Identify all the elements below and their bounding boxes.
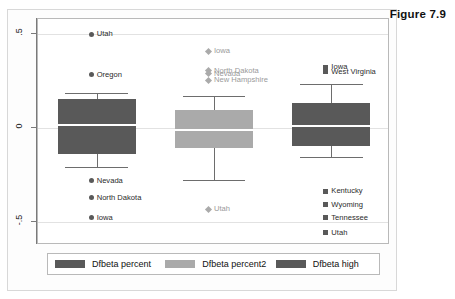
outlier-point: Nevada: [89, 177, 123, 185]
y-axis-tick-mark: [31, 127, 36, 128]
outlier-marker-icon: [323, 215, 328, 220]
median-line: [292, 125, 370, 127]
figure-page: Figure 7.9 .50-.5 UtahOregonNevadaNorth …: [0, 0, 455, 299]
outlier-point: Utah: [89, 30, 113, 38]
outlier-point: Tennessee: [323, 214, 368, 222]
outlier-marker-icon: [205, 206, 212, 213]
legend-swatch-icon: [276, 260, 306, 268]
outlier-point: Utah: [206, 205, 230, 213]
whisker-cap-upper: [183, 96, 245, 97]
outlier-marker-icon: [89, 215, 94, 220]
outlier-point: Oregon: [89, 71, 122, 79]
outlier-label: Utah: [97, 30, 113, 38]
legend-label: Dfbeta percent: [92, 259, 151, 269]
whisker-lower: [331, 146, 332, 157]
outlier-label: Utah: [214, 205, 230, 213]
y-axis-tick-label: -.5: [14, 209, 24, 231]
outlier-point: Iowa: [206, 47, 230, 55]
outlier-label: North Dakota: [97, 194, 142, 202]
outlier-label: Wyoming: [331, 201, 363, 209]
outlier-point: Utah: [323, 229, 347, 237]
y-axis-tick-mark: [31, 33, 36, 34]
whisker-lower: [97, 154, 98, 167]
median-line: [58, 124, 136, 126]
y-axis-tick-mark: [31, 221, 36, 222]
whisker-cap-lower: [183, 180, 245, 181]
plot-area: UtahOregonNevadaNorth DakotaIowaIowaNort…: [37, 18, 389, 244]
figure-title: Figure 7.9: [390, 8, 446, 20]
whisker-cap-lower: [65, 167, 127, 168]
legend-swatch-icon: [55, 260, 85, 268]
outlier-label: Nevada: [97, 177, 123, 185]
outlier-label: New Hampshire: [214, 76, 268, 84]
y-axis-tick-label: .5: [14, 21, 24, 43]
outlier-point: Kentucky: [323, 187, 362, 195]
outlier-marker-icon: [205, 47, 212, 54]
outlier-marker-icon: [89, 32, 94, 37]
outlier-point: Iowa: [89, 214, 113, 222]
median-line: [175, 129, 253, 131]
outlier-marker-icon: [89, 178, 94, 183]
whisker-upper: [331, 84, 332, 103]
outlier-label: Oregon: [97, 71, 122, 79]
legend-label: Dfbeta percent2: [202, 259, 266, 269]
outlier-marker-icon: [89, 195, 94, 200]
outlier-marker-icon: [323, 189, 328, 194]
outlier-label: West Virginia: [331, 68, 375, 76]
outlier-marker-icon: [323, 202, 328, 207]
outlier-marker-icon: [205, 77, 212, 84]
outlier-label: Kentucky: [331, 187, 362, 195]
legend-swatch-icon: [165, 260, 195, 268]
outlier-marker-icon: [89, 72, 94, 77]
whisker-cap-lower: [300, 157, 362, 158]
whisker-cap-upper: [65, 93, 127, 94]
outlier-point: Wyoming: [323, 201, 363, 209]
outlier-label: Tennessee: [331, 214, 368, 222]
chart-legend: Dfbeta percentDfbeta percent2Dfbeta high: [47, 253, 380, 275]
legend-item[interactable]: Dfbeta percent: [48, 259, 158, 269]
whisker-cap-upper: [300, 84, 362, 85]
outlier-label: Utah: [331, 229, 347, 237]
outlier-marker-icon: [323, 69, 328, 74]
outlier-point: New Hampshire: [206, 76, 268, 84]
whisker-upper: [214, 96, 215, 110]
whisker-lower: [214, 148, 215, 180]
outlier-point: West Virginia: [323, 68, 375, 76]
legend-item[interactable]: Dfbeta percent2: [158, 259, 268, 269]
y-axis-tick-label: 0: [14, 115, 24, 137]
legend-label: Dfbeta high: [313, 259, 359, 269]
outlier-label: Iowa: [97, 214, 113, 222]
outlier-point: North Dakota: [89, 194, 142, 202]
plot-inner: UtahOregonNevadaNorth DakotaIowaIowaNort…: [38, 19, 388, 243]
outlier-marker-icon: [323, 230, 328, 235]
legend-item[interactable]: Dfbeta high: [269, 259, 379, 269]
outlier-label: Iowa: [214, 47, 230, 55]
gridline: [38, 222, 388, 223]
